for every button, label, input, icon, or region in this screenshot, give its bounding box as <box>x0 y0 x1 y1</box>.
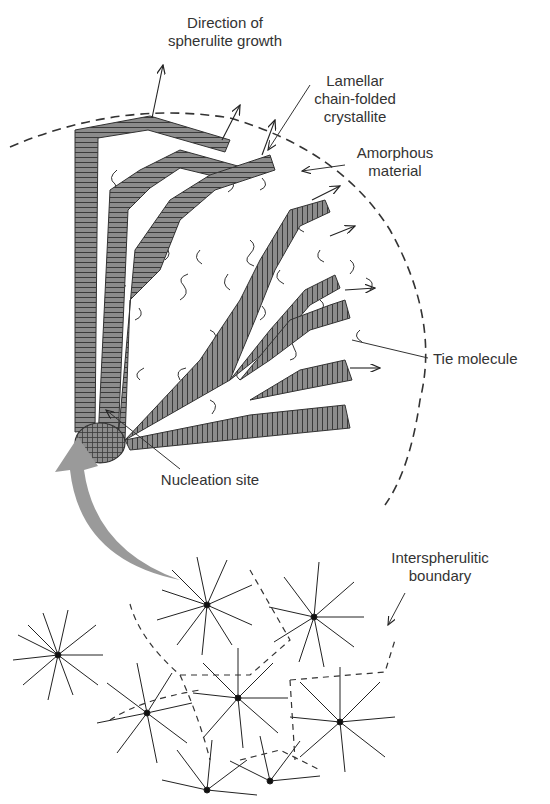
label-lamellar-crystallite: Lamellar chain-folded crystallite <box>295 72 415 126</box>
label-interspherulitic-line2: boundary <box>370 567 510 585</box>
label-growth-direction-line1: Direction of <box>150 14 300 32</box>
label-interspherulitic-boundary: Interspherulitic boundary <box>370 549 510 585</box>
label-nucleation-site: Nucleation site <box>140 471 280 489</box>
label-interspherulitic-line1: Interspherulitic <box>370 549 510 567</box>
label-growth-direction: Direction of spherulite growth <box>150 14 300 50</box>
label-nucleation-line1: Nucleation site <box>140 471 280 489</box>
label-growth-direction-line2: spherulite growth <box>150 32 300 50</box>
label-lamellar-line2: chain-folded <box>295 90 415 108</box>
label-tie-molecule-line1: Tie molecule <box>433 350 533 368</box>
label-amorphous-line1: Amorphous <box>345 144 445 162</box>
label-tie-molecule: Tie molecule <box>433 350 533 368</box>
spherulite-diagram <box>0 0 550 804</box>
label-lamellar-line1: Lamellar <box>295 72 415 90</box>
label-amorphous-line2: material <box>345 162 445 180</box>
label-lamellar-line3: crystallite <box>295 108 415 126</box>
curved-transition-arrow <box>55 437 180 580</box>
label-amorphous-material: Amorphous material <box>345 144 445 180</box>
